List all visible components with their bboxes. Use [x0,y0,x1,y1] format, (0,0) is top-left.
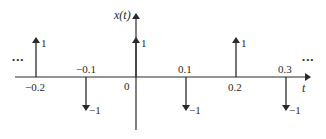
amp-label-0.2: 1 [241,37,247,49]
impulse-train-diagram: x(t) t ••• ••• 0 −0.2 −0.1 0.1 0.2 0.3 1… [0,0,326,139]
y-axis-title: x(t) [113,8,131,22]
amp-label-0.3: −1 [289,104,301,116]
origin-label: 0 [124,80,130,92]
tick-label-0.1: 0.1 [178,63,192,75]
amp-label-neg-0.2: 1 [41,37,47,49]
amp-label-0.1: −1 [189,104,201,116]
tick-label-neg-0.1: −0.1 [76,63,96,75]
ellipsis-left: ••• [12,55,24,65]
amp-label-0: 1 [141,37,147,49]
amp-label-neg-0.1: −1 [89,104,101,116]
diagram-canvas: x(t) t ••• ••• 0 −0.2 −0.1 0.1 0.2 0.3 1… [0,0,326,139]
tick-label-0.2: 0.2 [228,81,242,93]
x-axis-title: t [302,81,306,95]
ellipsis-right: ••• [302,55,314,65]
tick-label-neg-0.2: −0.2 [25,81,45,93]
tick-label-0.3: 0.3 [278,63,292,75]
